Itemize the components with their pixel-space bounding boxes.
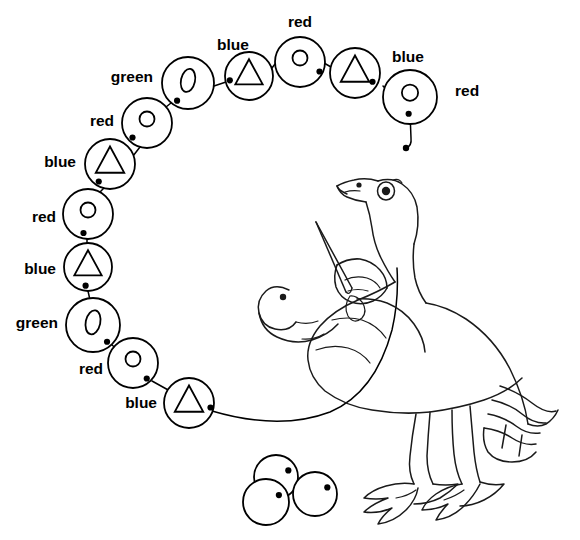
worksheet-canvas: redblueredbluegreenredblueredbluegreenre…	[0, 0, 580, 540]
loose-bead[interactable]	[243, 479, 289, 525]
bead-hole	[83, 283, 89, 289]
bead-blue[interactable]	[225, 52, 273, 100]
loose-bead-outline	[243, 479, 289, 525]
bead-hole	[104, 339, 110, 345]
goose-lower-beak	[337, 186, 366, 202]
goose-tail-div-2	[519, 435, 522, 456]
goose-leg-right-front	[452, 410, 462, 484]
bead-hole	[316, 68, 322, 74]
bead-hole	[129, 134, 135, 140]
bead-outline	[63, 189, 113, 239]
goose-wing-line	[316, 346, 370, 363]
threaded-bead-outline	[258, 287, 296, 330]
bead-label-red: red	[455, 82, 479, 99]
goose-toe-line-2	[444, 490, 464, 500]
bead-hole	[144, 375, 150, 381]
goose-wing-top	[357, 299, 425, 352]
sewing-needle-edge-2	[316, 222, 346, 292]
needle-thread-loop	[346, 296, 365, 321]
goose-nostril	[356, 182, 361, 187]
bead-red[interactable]	[383, 70, 437, 124]
bead-label-green: green	[16, 314, 58, 331]
bead-blue[interactable]	[64, 243, 112, 291]
loose-bead-hole	[276, 492, 282, 498]
bead-label-red: red	[288, 13, 312, 30]
bead-red[interactable]	[275, 37, 325, 87]
bead-blue[interactable]	[330, 48, 380, 98]
string-knot	[403, 145, 409, 151]
loose-beads-group	[243, 455, 337, 525]
bead-outline	[162, 57, 214, 109]
bead-label-blue: blue	[392, 48, 424, 65]
goose-tail-div-1	[502, 425, 506, 448]
goose-tail-4	[484, 428, 536, 444]
loose-bead-hole	[324, 484, 330, 490]
bead-label-blue: blue	[125, 394, 157, 411]
goose-foot-left	[364, 483, 418, 524]
bead-label-green: green	[111, 68, 153, 85]
bead-red[interactable]	[63, 189, 113, 239]
bead-green[interactable]	[66, 298, 120, 352]
bead-hole	[96, 178, 102, 184]
loose-bead-outline	[293, 472, 337, 516]
wingtip-detail-1	[296, 321, 318, 323]
bead-outline	[275, 37, 325, 87]
goose-toe-line-1	[396, 490, 416, 498]
bead-label-red: red	[79, 360, 103, 377]
goose-illustration	[258, 179, 558, 524]
goose-tail-1	[500, 386, 556, 412]
bead-blue[interactable]	[164, 378, 214, 428]
bead-red[interactable]	[122, 98, 172, 148]
goose-back	[426, 303, 528, 424]
string-to-goose	[212, 268, 397, 421]
bead-outline	[66, 298, 120, 352]
goose-leg-left-back	[427, 413, 433, 484]
goose-tail-bottom	[484, 428, 537, 462]
threaded-bead-hole	[280, 294, 286, 300]
goose-tail-2	[492, 400, 546, 423]
bead-label-blue: blue	[24, 260, 56, 277]
goose-leg-right-back	[470, 406, 480, 482]
bead-blue[interactable]	[85, 139, 135, 189]
bead-hole	[369, 79, 375, 85]
goose-wing-fold	[332, 318, 386, 338]
bead-hole	[174, 98, 180, 104]
loose-bead[interactable]	[293, 472, 337, 516]
bead-chain	[63, 37, 437, 428]
bead-outline	[122, 98, 172, 148]
bead-label-red: red	[32, 208, 56, 225]
goose-beak-line	[345, 191, 360, 192]
goose-neck-back	[413, 244, 426, 303]
goose-pupil	[382, 187, 390, 195]
loose-bead-hole	[285, 467, 291, 473]
bead-label-blue: blue	[217, 36, 249, 53]
bead-label-red: red	[90, 112, 114, 129]
goose-belly	[430, 378, 522, 412]
bead-red[interactable]	[108, 338, 158, 388]
bead-pattern-illustration: redblueredbluegreenredblueredbluegreenre…	[0, 0, 580, 540]
bead-hole	[406, 111, 412, 117]
bead-hole	[227, 77, 233, 83]
bead-hole	[80, 230, 86, 236]
bead-outline	[108, 338, 158, 388]
bead-green[interactable]	[162, 57, 214, 109]
bead-label-blue: blue	[44, 153, 76, 170]
bead-hole	[207, 404, 213, 410]
goose-leg-left-front	[410, 414, 417, 484]
